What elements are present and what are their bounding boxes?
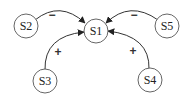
- edge-sign-s2-s1: −: [48, 8, 55, 22]
- node-label: S1: [90, 24, 103, 38]
- edge-sign-s3-s1: +: [54, 45, 61, 59]
- edge-s3-s1: [45, 32, 84, 70]
- node-label: S2: [20, 19, 33, 33]
- node-s3: S3: [33, 69, 57, 93]
- node-label: S4: [144, 73, 157, 87]
- edge-sign-s5-s1: −: [130, 8, 137, 22]
- node-s5: S5: [155, 14, 179, 38]
- node-label: S5: [161, 19, 174, 33]
- node-label: S3: [39, 74, 52, 88]
- node-s2: S2: [14, 14, 38, 38]
- node-s4: S4: [138, 68, 162, 92]
- edge-sign-s4-s1: +: [129, 44, 136, 58]
- edge-s2-s1: [35, 11, 85, 23]
- node-s1: S1: [84, 19, 108, 43]
- signed-influence-diagram: − − + + S1 S2 S3 S4 S5: [0, 0, 190, 101]
